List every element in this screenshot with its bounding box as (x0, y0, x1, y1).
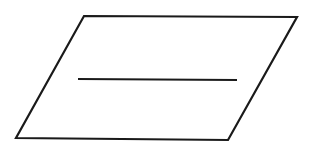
diagram-canvas (0, 0, 313, 150)
horizontal-divider-line (78, 79, 237, 80)
parallelogram-diagram (0, 0, 313, 150)
parallelogram-shape (16, 16, 297, 140)
